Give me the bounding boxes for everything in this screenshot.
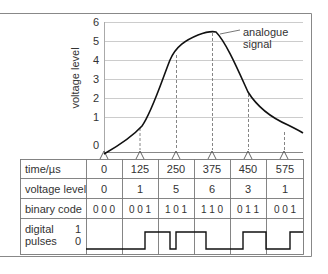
pcm-diagram: 6 5 4 3 2 1 0 voltage level analogue sig… xyxy=(0,0,328,274)
time-cell: 125 xyxy=(131,163,149,175)
digital-high-label: 1 xyxy=(75,223,81,235)
binary-cell: 0 1 1 xyxy=(237,204,260,215)
time-cell: 0 xyxy=(101,163,107,175)
binary-cell: 1 0 1 xyxy=(165,204,188,215)
time-row: 0 125 250 375 450 575 xyxy=(101,163,294,175)
voltage-cell: 6 xyxy=(209,183,215,195)
analogue-signal-curve xyxy=(104,32,303,154)
voltage-cell: 1 xyxy=(282,183,288,195)
y-tick-6: 6 xyxy=(93,16,99,28)
binary-cell: 0 0 1 xyxy=(129,204,152,215)
binary-cell: 0 0 0 xyxy=(93,204,116,215)
sample-dashed-lines xyxy=(140,33,285,150)
voltage-cell: 1 xyxy=(137,183,143,195)
row-label-binary: binary code xyxy=(25,203,82,215)
signal-label-leader xyxy=(220,30,240,34)
y-tick-3: 3 xyxy=(93,73,99,85)
y-tick-0: 0 xyxy=(93,139,99,151)
row-label-voltage: voltage level xyxy=(25,183,86,195)
y-tick-1: 1 xyxy=(93,111,99,123)
digital-low-label: 0 xyxy=(75,235,81,247)
y-tick-2: 2 xyxy=(93,92,99,104)
row-label-time: time/µs xyxy=(25,163,61,175)
time-cell: 575 xyxy=(276,163,294,175)
binary-cell: 0 0 1 xyxy=(274,204,297,215)
y-axis-label: voltage level xyxy=(69,47,81,108)
voltage-cell: 3 xyxy=(245,183,251,195)
voltage-cell: 0 xyxy=(101,183,107,195)
signal-label-line2: signal xyxy=(243,38,272,50)
y-tick-4: 4 xyxy=(93,54,99,66)
y-tick-labels: 6 5 4 3 2 1 0 xyxy=(93,16,99,151)
time-cell: 375 xyxy=(203,163,221,175)
time-cell: 450 xyxy=(239,163,257,175)
voltage-cell: 5 xyxy=(173,183,179,195)
binary-cell: 1 1 0 xyxy=(201,204,224,215)
y-tick-5: 5 xyxy=(93,35,99,47)
row-label-digital: digital xyxy=(25,223,54,235)
signal-label-line1: analogue xyxy=(243,26,288,38)
time-cell: 250 xyxy=(167,163,185,175)
row-label-pulses: pulses xyxy=(25,235,57,247)
